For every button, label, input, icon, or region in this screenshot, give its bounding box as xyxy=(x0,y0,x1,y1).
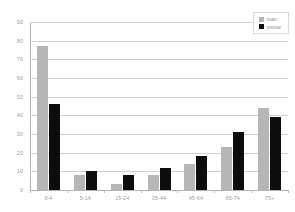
bar-man[interactable] xyxy=(74,175,85,190)
y-axis-tick-label: 30 xyxy=(17,131,23,137)
bar-man[interactable] xyxy=(37,46,48,190)
y-axis-tick-label: 60 xyxy=(17,75,23,81)
x-axis-tick-label: 15-24 xyxy=(104,195,141,209)
x-axis-labels: 0-45-1415-2435-4445-6465-7475+ xyxy=(30,195,288,209)
y-axis-tick-label: 40 xyxy=(17,112,23,118)
bar-group xyxy=(251,22,288,190)
x-axis-tick-label: 0-4 xyxy=(30,195,67,209)
y-axis-tick-label: 80 xyxy=(17,38,23,44)
x-axis-tick-label: 35-44 xyxy=(141,195,178,209)
bar-vrouw[interactable] xyxy=(123,175,134,190)
x-axis-tick xyxy=(104,190,105,193)
bar-group xyxy=(67,22,104,190)
bar-group xyxy=(214,22,251,190)
x-axis-tick xyxy=(141,190,142,193)
y-axis-labels: 0102030405060708090 xyxy=(0,22,27,190)
y-axis-tick-label: 10 xyxy=(17,168,23,174)
bar-vrouw[interactable] xyxy=(196,156,207,190)
bar-group xyxy=(104,22,141,190)
x-axis-tick-label: 75+ xyxy=(251,195,288,209)
bar-vrouw[interactable] xyxy=(86,171,97,190)
y-axis-tick-label: 0 xyxy=(20,187,23,193)
bar-man[interactable] xyxy=(221,147,232,190)
y-axis-tick-label: 90 xyxy=(17,19,23,25)
legend-swatch-icon xyxy=(259,24,264,29)
bar-vrouw[interactable] xyxy=(160,168,171,190)
bar-group xyxy=(30,22,67,190)
x-axis-ticks xyxy=(30,190,288,194)
x-axis-tick-label: 65-74 xyxy=(214,195,251,209)
x-axis-tick xyxy=(214,190,215,193)
bar-vrouw[interactable] xyxy=(270,117,281,190)
bar-group xyxy=(177,22,214,190)
x-axis-tick xyxy=(67,190,68,193)
bar-man[interactable] xyxy=(258,108,269,190)
plot-area xyxy=(30,22,288,190)
bar-chart: 0102030405060708090 0-45-1415-2435-4445-… xyxy=(0,0,295,212)
legend-label: man xyxy=(267,16,278,22)
bar-vrouw[interactable] xyxy=(233,132,244,190)
bar-vrouw[interactable] xyxy=(49,104,60,190)
y-axis-tick-label: 70 xyxy=(17,56,23,62)
x-axis-tick-label: 5-14 xyxy=(67,195,104,209)
x-axis-tick xyxy=(30,190,31,193)
x-axis-tick-label: 45-64 xyxy=(177,195,214,209)
legend-item[interactable]: man xyxy=(259,16,281,22)
x-axis-tick xyxy=(288,190,289,193)
x-axis-tick xyxy=(251,190,252,193)
legend-swatch-icon xyxy=(259,17,264,22)
bar-man[interactable] xyxy=(184,164,195,190)
bar-man[interactable] xyxy=(148,175,159,190)
x-axis-tick xyxy=(177,190,178,193)
y-axis-tick-label: 20 xyxy=(17,150,23,156)
y-axis-tick-label: 50 xyxy=(17,94,23,100)
bar-group xyxy=(141,22,178,190)
chart-legend: manvrouw xyxy=(253,12,289,34)
legend-label: vrouw xyxy=(267,24,281,30)
bar-groups xyxy=(30,22,288,190)
legend-item[interactable]: vrouw xyxy=(259,24,281,30)
